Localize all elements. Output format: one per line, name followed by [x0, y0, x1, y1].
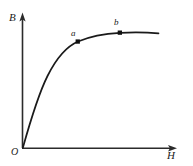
- point-label-b: b: [114, 18, 119, 27]
- x-axis-label: H: [167, 150, 175, 161]
- bh-curve-figure: B O H a b: [0, 0, 193, 166]
- origin-label: O: [11, 147, 18, 157]
- magnetization-curve: [23, 32, 159, 148]
- plot-canvas: [0, 0, 193, 166]
- point-label-a: a: [71, 29, 76, 38]
- point-marker-b: [118, 31, 122, 35]
- y-axis-label: B: [9, 12, 16, 23]
- point-marker-a: [76, 39, 80, 43]
